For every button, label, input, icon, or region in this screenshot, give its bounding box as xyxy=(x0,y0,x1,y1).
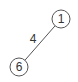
edge-label-1-6: 4 xyxy=(30,32,37,46)
node-1: 1 xyxy=(52,10,70,28)
node-6-label: 6 xyxy=(16,60,23,74)
edge-1-6 xyxy=(19,19,61,67)
node-1-label: 1 xyxy=(58,12,65,26)
graph-diagram: 4 1 6 xyxy=(0,0,78,82)
node-6: 6 xyxy=(10,58,28,76)
